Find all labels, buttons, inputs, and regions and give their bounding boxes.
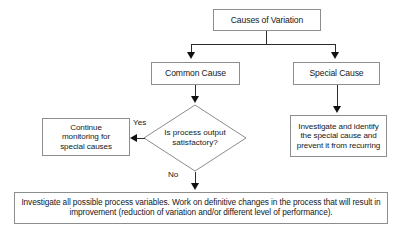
arrow-down-icon-investigate-special	[333, 106, 341, 113]
edge-split-bar	[191, 44, 335, 45]
node-special-cause-label: Special Cause	[306, 68, 366, 78]
node-causes-of-variation-label: Causes of Variation	[228, 15, 306, 25]
arrow-down-icon-investigate-all	[191, 183, 199, 190]
node-common-cause: Common Cause	[151, 62, 240, 85]
node-decision-process-output: Is process output satisfactory?	[143, 104, 247, 172]
node-common-cause-label: Common Cause	[162, 68, 229, 78]
node-investigate-special-cause: Investigate and identify the special cau…	[290, 115, 387, 157]
edge-special-to-investigate	[337, 85, 338, 107]
node-investigate-special-cause-label: Investigate and identify the special cau…	[294, 122, 383, 151]
node-investigate-all-variables-label: Investigate all possible process variabl…	[15, 198, 387, 218]
edge-causes-trunk	[266, 31, 267, 45]
node-special-cause: Special Cause	[293, 62, 380, 85]
node-causes-of-variation: Causes of Variation	[213, 9, 321, 31]
node-continue-monitoring: Continue monitoring for special causes	[42, 118, 130, 156]
flowchart-canvas: Causes of Variation Common Cause Special…	[0, 0, 400, 238]
edge-label-yes: Yes	[133, 118, 146, 127]
node-investigate-all-variables: Investigate all possible process variabl…	[14, 192, 388, 224]
node-continue-monitoring-label: Continue monitoring for special causes	[57, 123, 115, 152]
node-decision-label: Is process output satisfactory?	[143, 104, 247, 172]
arrow-left-icon-continue	[130, 134, 137, 142]
edge-yes-branch	[136, 138, 145, 139]
arrow-down-icon-special-cause	[331, 52, 339, 59]
arrow-down-icon-decision	[191, 96, 199, 103]
arrow-down-icon-common-cause	[187, 52, 195, 59]
edge-label-no: No	[168, 170, 178, 179]
